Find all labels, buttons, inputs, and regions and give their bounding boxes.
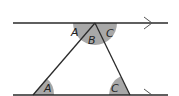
label-bottom-left: A (43, 82, 52, 95)
label-top-middle: B (88, 34, 96, 47)
triangle-left-side (33, 23, 95, 95)
label-top-left: A (70, 26, 79, 39)
parallel-arrow-bottom-icon (144, 89, 152, 95)
label-top-right: C (106, 27, 114, 40)
label-bottom-right: C (111, 82, 119, 95)
angle-diagram: A B C A C (0, 0, 179, 96)
